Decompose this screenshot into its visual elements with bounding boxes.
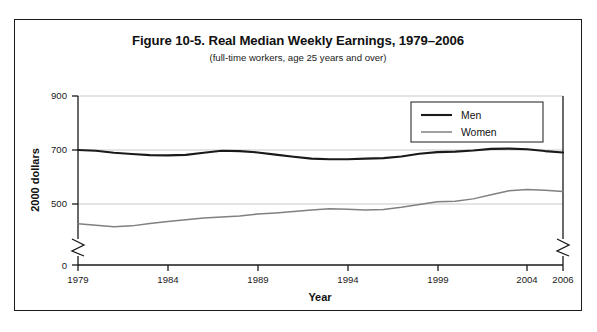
- y-tick-label-900: 900: [51, 90, 67, 101]
- x-tick-label-1999: 1999: [427, 274, 448, 285]
- y-axis-title: 2000 dollars: [29, 148, 41, 212]
- x-tick-label-1989: 1989: [247, 274, 268, 285]
- x-tick-label-1984: 1984: [157, 274, 179, 285]
- figure-frame: Figure 10-5. Real Median Weekly Earnings…: [14, 19, 582, 311]
- y-axis: [72, 96, 84, 265]
- y-axis-break-icon: [72, 239, 84, 256]
- legend-label-women: Women: [461, 127, 497, 138]
- x-tick-label-1979: 1979: [67, 274, 88, 285]
- right-axis-break-icon: [557, 239, 569, 256]
- x-tick-label-2004: 2004: [516, 274, 538, 285]
- chart-plot-area: 900 700 500 0 1979 1984 1989 1994 1999 2…: [15, 20, 583, 312]
- series-group: [78, 149, 563, 227]
- series-line-women: [78, 189, 563, 226]
- chart-legend[interactable]: Men Women: [411, 102, 543, 142]
- x-axis: [78, 265, 563, 271]
- x-tick-label-2006: 2006: [552, 274, 573, 285]
- y-tick-label-0: 0: [62, 260, 67, 271]
- y-tick-label-700: 700: [51, 144, 67, 155]
- x-tick-label-1994: 1994: [337, 274, 359, 285]
- legend-label-men: Men: [461, 110, 481, 121]
- x-axis-title: Year: [308, 291, 332, 303]
- y-tick-label-500: 500: [51, 198, 67, 209]
- right-axis: [557, 96, 569, 265]
